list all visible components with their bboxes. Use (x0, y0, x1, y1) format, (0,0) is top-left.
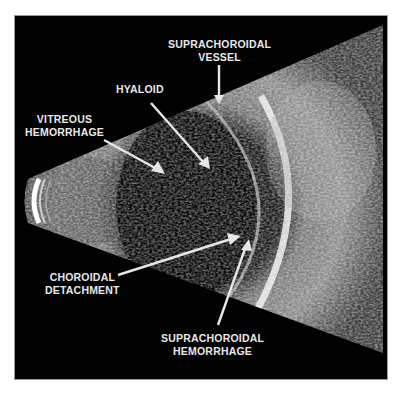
ultrasound-frame (14, 15, 388, 380)
label-line: VITREOUS (25, 113, 104, 126)
label-line: SUPRACHOROIDAL (161, 332, 264, 345)
label-line: HYALOID (116, 83, 164, 96)
label-line: HEMORRHAGE (25, 126, 104, 139)
label-line: HEMORRHAGE (161, 345, 264, 358)
label-hyaloid: HYALOID (116, 83, 164, 96)
label-choroidal-detachment: CHOROIDAL DETACHMENT (45, 271, 120, 297)
label-line: DETACHMENT (45, 284, 120, 297)
label-line: CHOROIDAL (45, 271, 120, 284)
label-line: VESSEL (168, 51, 271, 64)
label-suprachoroidal-vessel: SUPRACHOROIDAL VESSEL (168, 38, 271, 64)
label-suprachoroidal-hemorrhage: SUPRACHOROIDAL HEMORRHAGE (161, 332, 264, 358)
label-line: SUPRACHOROIDAL (168, 38, 271, 51)
ultrasound-scan-image (15, 16, 388, 380)
label-vitreous-hemorrhage: VITREOUS HEMORRHAGE (25, 113, 104, 139)
